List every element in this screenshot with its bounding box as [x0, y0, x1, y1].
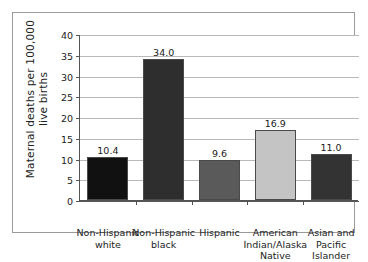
gridline: [80, 77, 359, 78]
y-tick-label: 25: [61, 92, 73, 103]
gridline: [80, 35, 359, 36]
bar-value-label: 16.9: [265, 118, 286, 129]
y-tick-mark: [76, 160, 80, 161]
x-tick-mark: [247, 201, 248, 205]
bar: [311, 154, 352, 200]
y-tick-mark: [76, 118, 80, 119]
x-axis-category-label: Asian and Pacific Islander: [297, 227, 365, 262]
gridline: [80, 139, 359, 140]
plot-area: 0510152025303540 10.434.09.616.911.0 Non…: [79, 35, 358, 201]
y-tick-mark: [76, 77, 80, 78]
bar: [87, 157, 128, 200]
y-tick-mark: [76, 97, 80, 98]
bar: [255, 130, 296, 200]
gridline: [80, 118, 359, 119]
y-tick-mark: [76, 56, 80, 57]
y-tick-mark: [76, 201, 80, 202]
y-axis-title: Maternal deaths per 100,000 live births: [24, 14, 64, 184]
bar-value-label: 34.0: [153, 47, 174, 58]
y-tick-label: 30: [61, 71, 73, 82]
gridline: [80, 201, 359, 202]
bar-value-label: 9.6: [212, 148, 227, 159]
y-tick-mark: [76, 180, 80, 181]
bar: [143, 59, 184, 200]
bar-value-label: 10.4: [97, 145, 118, 156]
x-tick-mark: [192, 201, 193, 205]
bar: [199, 160, 240, 200]
figure-frame: Maternal deaths per 100,000 live births …: [12, 12, 355, 233]
bar-value-label: 11.0: [321, 142, 342, 153]
y-tick-label: 15: [61, 133, 73, 144]
x-tick-mark: [303, 201, 304, 205]
y-tick-label: 35: [61, 50, 73, 61]
gridline: [80, 56, 359, 57]
gridline: [80, 97, 359, 98]
x-tick-mark: [136, 201, 137, 205]
y-tick-label: 40: [61, 30, 73, 41]
y-tick-label: 0: [67, 196, 73, 207]
y-tick-mark: [76, 139, 80, 140]
y-tick-label: 5: [67, 175, 73, 186]
y-tick-label: 20: [61, 113, 73, 124]
y-tick-mark: [76, 35, 80, 36]
y-tick-label: 10: [61, 154, 73, 165]
